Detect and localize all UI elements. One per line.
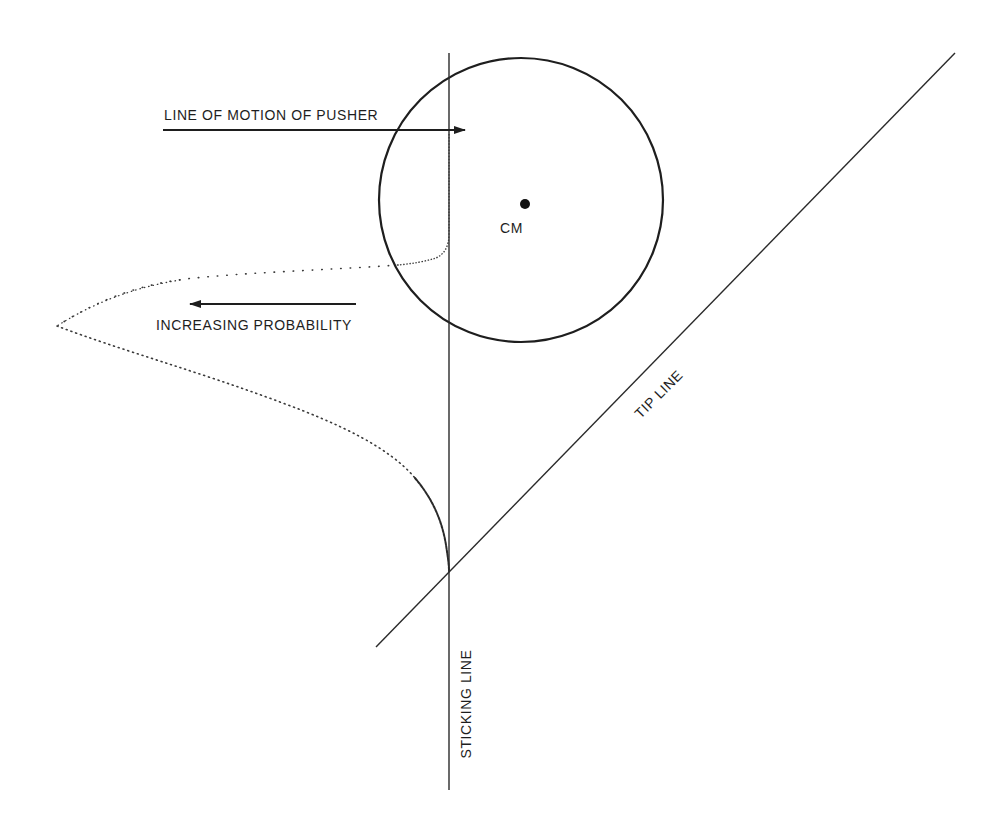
center-of-mass-label: CM bbox=[500, 221, 523, 235]
probability-trace-upper-vertical bbox=[398, 134, 449, 265]
probability-curve-lower-branch bbox=[57, 326, 415, 478]
increasing-probability-label: INCREASING PROBABILITY bbox=[156, 318, 352, 332]
disk-outline bbox=[379, 58, 663, 342]
center-of-mass-dot bbox=[520, 199, 530, 209]
pusher-motion-label: LINE OF MOTION OF PUSHER bbox=[164, 108, 378, 122]
probability-curve-lower-branch-dense bbox=[415, 478, 449, 571]
tip-line bbox=[376, 53, 955, 647]
sticking-line-label: STICKING LINE bbox=[459, 650, 473, 759]
pushing-diagram bbox=[0, 0, 1001, 819]
